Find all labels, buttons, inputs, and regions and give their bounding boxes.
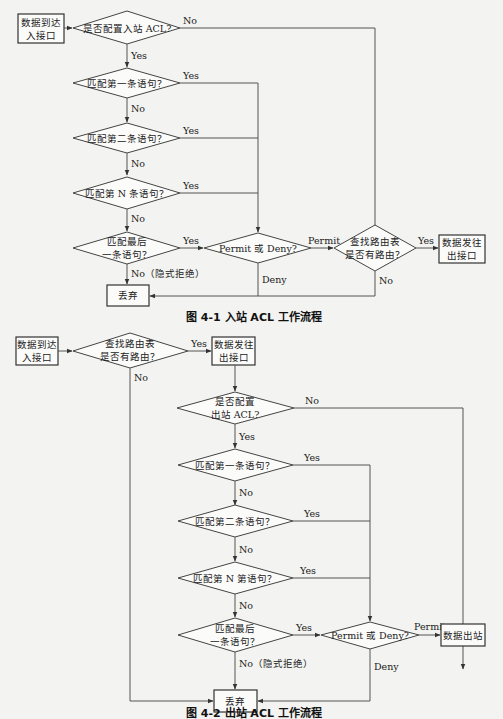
node-label: Permit 或 Deny? [331, 630, 409, 641]
decision-inbound-acl-configured: 是否配置入站 ACL? [73, 11, 180, 44]
decision-match-nth-rule: 匹配第 N 条语句？ [73, 177, 180, 209]
node-label: 匹配最后 [215, 623, 255, 634]
node-label: 是否有路由？ [345, 249, 405, 260]
edge-label-deny: Deny [374, 661, 399, 672]
node-label: 入接口 [26, 30, 56, 41]
decision-permit-or-deny: Permit 或 Deny? [321, 622, 419, 649]
node-label: 数据出站 [443, 630, 483, 641]
figure-caption: 图 4-1 入站 ACL 工作流程 [186, 310, 322, 324]
node-data-egress: 数据出站 [441, 624, 485, 646]
decision-route-lookup: 查找路由表 是否有路由？ [334, 225, 416, 271]
edge-label-implicit-deny: No（隐式拒绝） [239, 658, 313, 669]
decision-match-first-rule: 匹配第一条语句？ [178, 449, 293, 481]
decision-match-second-rule: 匹配第二条语句？ [178, 505, 293, 537]
edge-label-no: No [183, 15, 197, 26]
node-label: 匹配第一条语句？ [195, 460, 275, 471]
edge-label-no: No [379, 275, 393, 286]
node-label: 是否配置入站 ACL? [83, 23, 172, 34]
decision-outbound-acl-configured: 是否配置 出站 ACL? [177, 392, 294, 424]
edge-label-implicit-deny: No（隐式拒绝） [131, 268, 205, 279]
node-label: 匹配第二条语句？ [87, 133, 167, 144]
edge-label-no: No [131, 158, 145, 169]
figure-inbound-acl: 数据到达 入接口 是否配置入站 ACL? No Yes 匹配第一条语句？ Yes… [18, 11, 485, 324]
node-forward-to-outbound: 数据发往 出接口 [439, 235, 485, 263]
acl-flowcharts: 数据到达 入接口 是否配置入站 ACL? No Yes 匹配第一条语句？ Yes… [0, 0, 503, 719]
node-label: 丢弃 [225, 696, 245, 707]
node-label: 一条语句？ [210, 636, 260, 647]
decision-match-nth-rule: 匹配第 N 第语句？ [178, 562, 293, 594]
edge-label-no: No [239, 600, 253, 611]
node-label: 出接口 [219, 352, 249, 363]
node-label: 出站 ACL? [211, 409, 260, 420]
node-data-arrives-inbound: 数据到达 入接口 [16, 337, 58, 365]
decision-match-last-rule: 匹配最后 一条语句？ [178, 618, 293, 652]
edge-label-yes: Yes [130, 50, 147, 61]
node-label: 匹配最后 [107, 236, 147, 247]
decision-permit-or-deny: Permit 或 Deny? [204, 233, 311, 263]
node-discard: 丢弃 [107, 285, 149, 306]
decision-match-second-rule: 匹配第二条语句？ [73, 123, 180, 153]
node-label: 数据发往 [214, 339, 254, 350]
edge-label-no: No [305, 395, 319, 406]
node-label: 匹配第一条语句？ [87, 78, 167, 89]
edge-label-yes: Yes [303, 452, 320, 463]
figure-outbound-acl: 数据到达 入接口 查找路由表 是否有路由？ Yes No 数据发往 出接口 是否… [16, 333, 485, 719]
node-label: 查找路由表 [350, 236, 400, 247]
edge-label-yes: Yes [303, 508, 320, 519]
node-label: 丢弃 [118, 290, 138, 301]
node-label: 数据到达 [21, 17, 61, 28]
edge-label-yes: Yes [182, 235, 199, 246]
node-label: 是否配置 [215, 396, 255, 407]
node-label: 出接口 [447, 250, 477, 261]
node-label: 一条语句？ [102, 249, 152, 260]
edge-label-no: No [239, 487, 253, 498]
node-label: 数据发往 [442, 237, 482, 248]
node-label: 匹配第二条语句？ [195, 516, 275, 527]
node-label: Permit 或 Deny? [219, 243, 297, 254]
edge-label-yes: Yes [182, 125, 199, 136]
decision-match-first-rule: 匹配第一条语句？ [73, 68, 180, 98]
edge-label-no: No [239, 544, 253, 555]
edge-label-yes: Yes [182, 180, 199, 191]
edge-label-yes: Yes [299, 565, 316, 576]
edge-label-permit: Permit [308, 235, 340, 246]
node-data-arrives-inbound: 数据到达 入接口 [18, 14, 64, 43]
edge-label-no: No [134, 372, 148, 383]
decision-route-lookup: 查找路由表 是否有路由？ [73, 333, 188, 368]
edge-label-yes: Yes [417, 235, 434, 246]
edge-label-deny: Deny [262, 274, 287, 285]
edge-label-yes: Yes [238, 431, 255, 442]
node-label: 查找路由表 [105, 338, 155, 349]
edge-label-yes: Yes [295, 622, 312, 633]
node-label: 匹配第 N 条语句？ [85, 188, 169, 199]
edge-label-yes: Yes [182, 70, 199, 81]
edge-label-yes: Yes [190, 338, 207, 349]
node-label: 匹配第 N 第语句？ [193, 573, 277, 584]
figure-caption: 图 4-2 出站 ACL 工作流程 [186, 706, 322, 719]
node-forward-to-outbound: 数据发往 出接口 [212, 337, 255, 365]
decision-match-last-rule: 匹配最后 一条语句？ [73, 232, 180, 264]
node-label: 入接口 [22, 352, 52, 363]
edge-label-no: No [131, 213, 145, 224]
node-label: 数据到达 [17, 339, 57, 350]
edge-label-no: No [131, 103, 145, 114]
node-label: 是否有路由？ [100, 351, 160, 362]
